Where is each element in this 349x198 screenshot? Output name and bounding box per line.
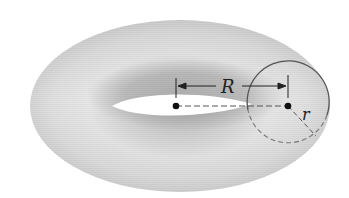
tube-center-point [285, 103, 292, 110]
R-label: R [220, 76, 235, 97]
torus-center-point [173, 103, 180, 110]
r-label: r [302, 105, 311, 124]
torus-figure: R r [0, 0, 349, 198]
torus-diagram: R r [0, 0, 349, 198]
